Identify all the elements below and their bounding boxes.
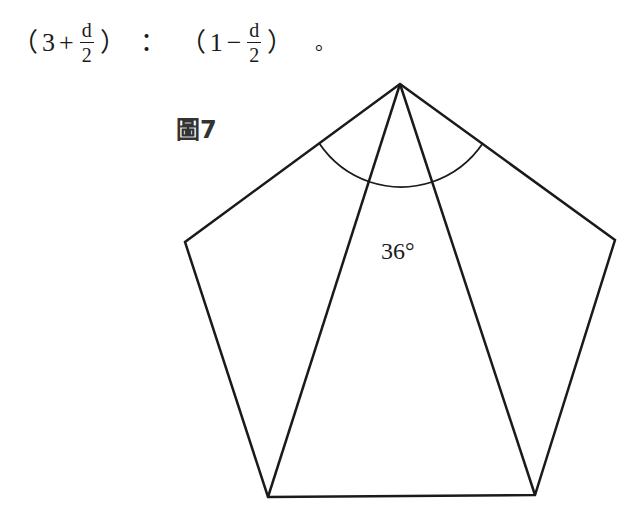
diagonal-left [268, 84, 400, 497]
angle-arc-middle [370, 182, 432, 187]
angle-label: 36° [381, 238, 415, 265]
pentagon-outline [185, 84, 615, 497]
angle-arc-left [319, 143, 370, 182]
pentagon-figure [0, 0, 630, 510]
angle-arc-right [432, 143, 483, 182]
diagonal-right [400, 84, 535, 495]
